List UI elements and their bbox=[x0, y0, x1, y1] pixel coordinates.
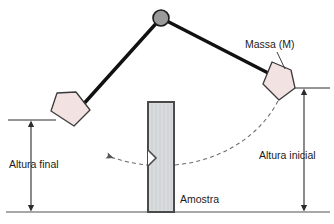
pivot-hub bbox=[153, 10, 169, 26]
final-height-arrow-up bbox=[28, 121, 34, 128]
swing-trajectory-arc bbox=[108, 101, 278, 166]
pendulum-arm-final bbox=[80, 18, 161, 108]
hammer-mass-initial bbox=[263, 62, 295, 100]
initial-height-arrow-up bbox=[301, 89, 307, 96]
figure-canvas: Massa (M) Altura inicial Altura final Am… bbox=[0, 0, 334, 224]
initial-height-arrow-down bbox=[301, 205, 307, 212]
final-height-label: Altura final bbox=[9, 158, 59, 170]
mass-label: Massa (M) bbox=[245, 38, 295, 50]
specimen-label: Amostra bbox=[180, 193, 219, 205]
initial-height-label: Altura inicial bbox=[259, 149, 316, 161]
final-height-arrow-down bbox=[28, 205, 34, 212]
charpy-impact-diagram: Massa (M) Altura inicial Altura final Am… bbox=[0, 0, 334, 224]
hammer-mass-final bbox=[51, 92, 90, 126]
specimen-block bbox=[148, 102, 174, 212]
